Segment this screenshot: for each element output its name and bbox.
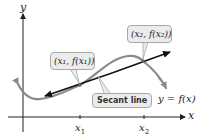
callout-pointer-2 <box>143 42 148 59</box>
point1-callout: (x₁, f(x₁)) <box>50 52 95 70</box>
function-label: y = f(x) <box>158 93 196 105</box>
x1-tick-label: x1 <box>75 122 85 138</box>
secant-line-right <box>112 52 170 73</box>
secant-line-label: Secant line <box>92 93 152 108</box>
y-axis-label: y <box>20 2 26 14</box>
x-axis-label: x <box>188 110 194 122</box>
point2-callout: (x₂, f(x₂)) <box>127 25 172 43</box>
graph-canvas <box>0 0 200 139</box>
callout-pointer-1 <box>70 69 79 83</box>
secant-line-figure: y x x1 x2 (x₁, f(x₁)) (x₂, f(x₂)) Secant… <box>0 0 200 139</box>
point-x1 <box>78 83 82 87</box>
x2-tick-label: x2 <box>139 122 149 138</box>
callout-pointer-secant <box>98 76 110 93</box>
point-x2 <box>141 59 145 63</box>
